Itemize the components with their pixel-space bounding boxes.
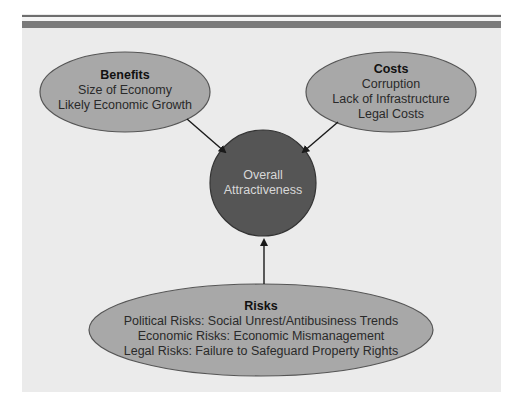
costs-label: Costs Corruption Lack of Infrastructure … [306, 62, 476, 122]
benefits-line-2: Likely Economic Growth [40, 98, 210, 113]
center-line-2: Attractiveness [213, 183, 313, 198]
benefits-label: Benefits Size of Economy Likely Economic… [40, 68, 210, 113]
benefits-title: Benefits [40, 68, 210, 83]
costs-line-1: Corruption [306, 77, 476, 92]
arrow-costs-to-center [303, 122, 338, 152]
center-line-1: Overall [213, 168, 313, 183]
risks-line-3: Legal Risks: Failure to Safeguard Proper… [96, 344, 426, 359]
risks-label: Risks Political Risks: Social Unrest/Ant… [96, 299, 426, 359]
benefits-line-1: Size of Economy [40, 83, 210, 98]
costs-line-3: Legal Costs [306, 107, 476, 122]
costs-title: Costs [306, 62, 476, 77]
arrow-benefits-to-center [187, 119, 225, 152]
risks-line-1: Political Risks: Social Unrest/Antibusin… [96, 314, 426, 329]
risks-title: Risks [96, 299, 426, 314]
costs-line-2: Lack of Infrastructure [306, 92, 476, 107]
risks-line-2: Economic Risks: Economic Mismanagement [96, 329, 426, 344]
overall-attractiveness-label: Overall Attractiveness [213, 168, 313, 198]
